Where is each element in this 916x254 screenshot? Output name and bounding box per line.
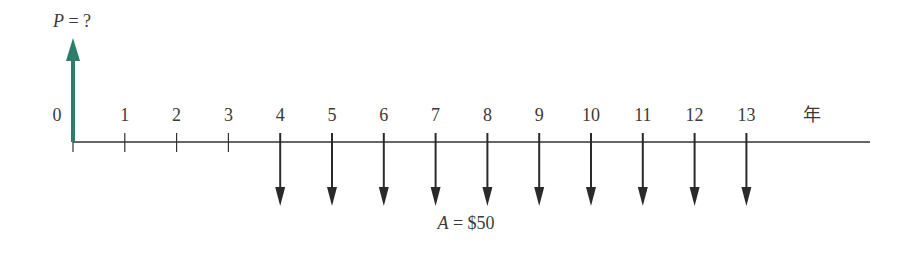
up-arrow-icon (66, 38, 80, 61)
period-label: 12 (686, 106, 704, 124)
down-arrow-icon (741, 187, 751, 206)
cash-flow-diagram: P = ? A = $50 年 012345678910111213 (0, 0, 916, 254)
unit-label: 年 (803, 106, 821, 124)
period-label: 5 (328, 106, 337, 124)
down-arrow-icon (275, 187, 285, 206)
period-label: 10 (582, 106, 600, 124)
down-arrow-icon (534, 187, 544, 206)
period-label: 9 (535, 106, 544, 124)
period-label: 2 (172, 106, 181, 124)
period-label: 3 (224, 106, 233, 124)
period-label: 0 (53, 106, 62, 124)
period-label: 13 (737, 106, 755, 124)
annuity-label: A = $50 (437, 214, 494, 232)
down-arrow-icon (690, 187, 700, 206)
present-value-var: P (53, 11, 64, 31)
down-arrow-icon (431, 187, 441, 206)
present-value-rest: = ? (64, 11, 91, 31)
period-label: 4 (276, 106, 285, 124)
period-label: 11 (634, 106, 651, 124)
annuity-var: A (437, 213, 448, 233)
annuity-rest: = $50 (448, 213, 494, 233)
down-arrow-icon (379, 187, 389, 206)
present-value-label: P = ? (53, 12, 91, 30)
period-label: 7 (431, 106, 440, 124)
down-arrow-icon (638, 187, 648, 206)
down-arrow-icon (586, 187, 596, 206)
period-label: 6 (379, 106, 388, 124)
period-label: 1 (120, 106, 129, 124)
period-label: 8 (483, 106, 492, 124)
down-arrow-icon (327, 187, 337, 206)
down-arrow-icon (482, 187, 492, 206)
